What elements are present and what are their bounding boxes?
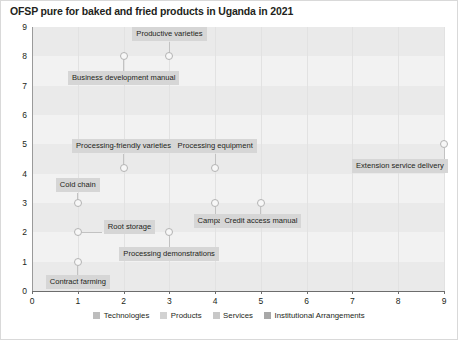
- data-point-marker[interactable]: [74, 258, 82, 266]
- x-axis-tick-label: 9: [434, 297, 454, 306]
- grid-line-vertical: [261, 27, 262, 291]
- data-point-label: Credit access manual: [220, 214, 301, 228]
- y-axis-tick-label: 3: [5, 199, 27, 208]
- data-point-marker[interactable]: [74, 199, 82, 207]
- x-axis-tick-mark: [78, 291, 79, 294]
- x-axis-tick-mark: [352, 291, 353, 294]
- y-axis-tick-label: 6: [5, 111, 27, 120]
- x-axis-tick-mark: [32, 291, 33, 294]
- legend-swatch-icon: [160, 312, 167, 319]
- data-point-marker[interactable]: [120, 164, 128, 172]
- x-axis-tick-label: 6: [297, 297, 317, 306]
- data-point-marker[interactable]: [440, 140, 448, 148]
- y-axis-tick-label: 8: [5, 52, 27, 61]
- x-axis-tick-label: 4: [205, 297, 225, 306]
- legend-swatch-icon: [264, 312, 271, 319]
- grid-band: [32, 86, 444, 115]
- data-point-marker[interactable]: [120, 52, 128, 60]
- data-point-label: Processing-friendly varieties: [72, 139, 175, 153]
- y-axis-tick-label: 4: [5, 170, 27, 179]
- data-point-label: Business development manual: [68, 71, 179, 85]
- y-axis-line: [32, 27, 33, 291]
- legend-item[interactable]: Technologies: [93, 311, 149, 320]
- x-axis-tick-mark: [307, 291, 308, 294]
- y-axis-tick-label: 7: [5, 82, 27, 91]
- x-axis-tick-label: 7: [342, 297, 362, 306]
- data-point-label: Processing equipment: [174, 139, 257, 153]
- data-point-label: Processing demonstrations: [119, 247, 219, 261]
- chart-title: OFSP pure for baked and fried products i…: [10, 5, 293, 17]
- x-axis-tick-label: 3: [159, 297, 179, 306]
- x-axis-tick-label: 2: [114, 297, 134, 306]
- x-axis-tick-mark: [215, 291, 216, 294]
- x-axis-tick-mark: [398, 291, 399, 294]
- x-axis-tick-label: 0: [22, 297, 42, 306]
- grid-line-vertical: [307, 27, 308, 291]
- x-axis-tick-label: 1: [68, 297, 88, 306]
- legend-item[interactable]: Institutional Arrangements: [264, 311, 365, 320]
- legend-item[interactable]: Services: [213, 311, 253, 320]
- y-axis-tick-label: 2: [5, 228, 27, 237]
- legend-item[interactable]: Products: [160, 311, 201, 320]
- data-point-label: Productive varieties: [132, 27, 206, 41]
- data-point-label: Contract farming: [46, 275, 110, 289]
- legend-swatch-icon: [93, 312, 100, 319]
- label-leader-line: [82, 232, 102, 233]
- data-point-label: Cold chain: [56, 178, 100, 192]
- data-point-marker[interactable]: [257, 199, 265, 207]
- y-axis-tick-label: 0: [5, 287, 27, 296]
- grid-line-vertical: [78, 27, 79, 291]
- x-axis-line: [32, 291, 444, 292]
- data-point-marker[interactable]: [211, 164, 219, 172]
- chart-legend: TechnologiesProductsServicesInstitutiona…: [1, 311, 457, 320]
- data-point-label: Extension service delivery: [352, 159, 448, 173]
- x-axis-tick-label: 8: [388, 297, 408, 306]
- x-axis-tick-mark: [261, 291, 262, 294]
- y-axis-tick-label: 5: [5, 140, 27, 149]
- x-axis-tick-mark: [124, 291, 125, 294]
- legend-label: Technologies: [104, 311, 150, 320]
- grid-band: [32, 27, 444, 56]
- legend-label: Products: [171, 311, 202, 320]
- x-axis-tick-mark: [169, 291, 170, 294]
- x-axis-tick-label: 5: [251, 297, 271, 306]
- y-axis-tick-label: 9: [5, 23, 27, 32]
- x-axis-tick-mark: [444, 291, 445, 294]
- chart-figure: OFSP pure for baked and fried products i…: [0, 0, 458, 340]
- data-point-label: Root storage: [104, 220, 155, 234]
- legend-label: Institutional Arrangements: [275, 311, 365, 320]
- legend-swatch-icon: [213, 312, 220, 319]
- legend-label: Services: [223, 311, 253, 320]
- y-axis-tick-label: 1: [5, 258, 27, 267]
